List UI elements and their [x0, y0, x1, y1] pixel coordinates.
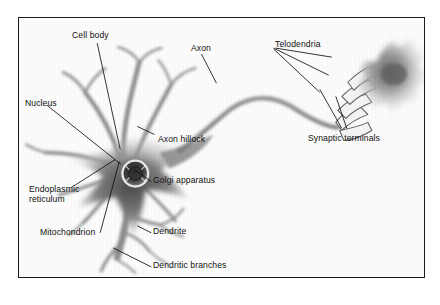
- leader-telodendria-b: [276, 48, 332, 57]
- neuron-illustration: [19, 18, 424, 277]
- leader-axon: [201, 54, 216, 83]
- label-synaptic-terminals: Synaptic terminals: [308, 133, 380, 143]
- nucleus: [121, 160, 149, 188]
- label-dendritic-branches: Dendritic branches: [153, 260, 226, 270]
- diagram-frame: Cell body Axon Telodendria Nucleus Axon …: [18, 17, 425, 278]
- label-endoplasmic-reticulum: Endoplasmic reticulum: [29, 184, 79, 205]
- label-golgi-apparatus: Golgi apparatus: [153, 175, 215, 185]
- figure-canvas: Cell body Axon Telodendria Nucleus Axon …: [0, 0, 440, 305]
- label-axon: Axon: [191, 43, 211, 53]
- label-axon-hillock: Axon hillock: [158, 134, 205, 144]
- leader-telodendria-c: [274, 49, 320, 92]
- label-telodendria: Telodendria: [275, 39, 321, 49]
- label-dendrite: Dendrite: [153, 226, 186, 236]
- label-nucleus: Nucleus: [25, 98, 57, 108]
- label-mitochondrion: Mitochondrion: [40, 227, 95, 237]
- leader-dendrite: [137, 226, 151, 233]
- label-cell-body: Cell body: [72, 30, 109, 40]
